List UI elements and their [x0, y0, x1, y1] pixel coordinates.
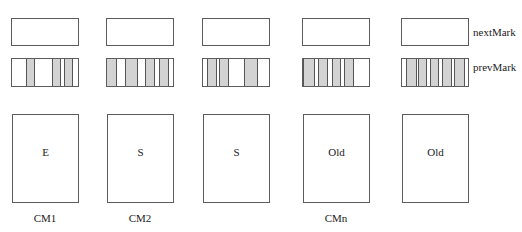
marked-stripe [159, 59, 169, 86]
cm-label: CM2 [96, 212, 184, 224]
marked-stripe [406, 59, 417, 86]
column-3: S [202, 0, 270, 232]
next-mark-label: nextMark [473, 26, 516, 38]
prev-mark-bitmap [202, 58, 270, 87]
column-1: E CM1 [11, 0, 79, 232]
cm-label: CM1 [1, 212, 89, 224]
marked-stripe [442, 59, 452, 86]
marked-stripe [332, 59, 341, 86]
marked-stripe [430, 59, 439, 86]
region-label: E [13, 146, 78, 158]
prev-mark-bitmap [401, 58, 469, 87]
prev-mark-bitmap [302, 58, 370, 87]
cm-label: CMn [292, 212, 380, 224]
marked-stripe [318, 59, 328, 86]
prev-mark-bitmap [11, 58, 79, 87]
region-label: S [204, 146, 269, 158]
region-box: S [107, 114, 174, 203]
column-4: Old CMn [302, 0, 370, 232]
region-label: Old [403, 146, 468, 158]
marked-stripe [64, 59, 73, 86]
marked-stripe [125, 59, 138, 86]
region-label: S [108, 146, 173, 158]
marked-stripe [244, 59, 258, 86]
marked-stripe [303, 59, 315, 86]
marked-stripe [207, 59, 217, 86]
region-box: E [12, 114, 79, 203]
column-2: S CM2 [106, 0, 174, 232]
marked-stripe [219, 59, 229, 86]
next-mark-bitmap [11, 18, 79, 46]
region-box: S [203, 114, 270, 203]
region-box: Old [303, 114, 370, 203]
marked-stripe [52, 59, 61, 86]
region-box: Old [402, 114, 469, 203]
marked-stripe [418, 59, 427, 86]
prev-mark-label: prevMark [473, 61, 516, 73]
marked-stripe [26, 59, 35, 86]
next-mark-bitmap [302, 18, 370, 46]
marked-stripe [145, 59, 155, 86]
region-label: Old [304, 146, 369, 158]
next-mark-bitmap [401, 18, 469, 46]
marked-stripe [344, 59, 354, 86]
column-5: Old [401, 0, 469, 232]
marked-stripe [106, 59, 117, 86]
marked-stripe [454, 59, 465, 86]
next-mark-bitmap [106, 18, 174, 46]
prev-mark-bitmap [106, 58, 174, 87]
next-mark-bitmap [202, 18, 270, 46]
